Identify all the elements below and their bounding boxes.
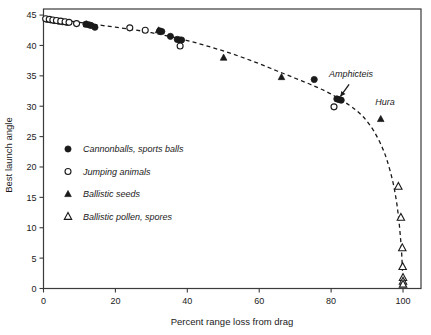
point-open-circle [65, 169, 71, 175]
point-filled-triangle [65, 191, 72, 197]
x-tick-label-100: 100 [396, 296, 411, 306]
annotation-arrow-head [340, 91, 345, 97]
point-filled-circle [178, 37, 184, 43]
x-axis-ticks: 020406080100 [41, 289, 411, 306]
chart-figure: 020406080100 051015202530354045 Amphicte… [0, 0, 431, 335]
legend-item-3: Ballistic pollen, spores [64, 212, 172, 222]
point-open-circle [142, 27, 148, 33]
y-tick-label-25: 25 [26, 132, 36, 142]
point-filled-triangle [377, 115, 384, 121]
y-tick-label-45: 45 [26, 10, 36, 20]
point-open-circle [331, 104, 337, 110]
legend-label-3: Ballistic pollen, spores [83, 212, 173, 222]
point-open-triangle [399, 263, 406, 270]
legend-label-1: Jumping animals [82, 167, 151, 177]
y-tick-label-20: 20 [26, 162, 36, 172]
series-open-circle [43, 16, 337, 110]
legend-item-2: Ballistic seeds [65, 189, 141, 199]
x-tick-label-60: 60 [254, 296, 264, 306]
legend-label-2: Ballistic seeds [83, 189, 141, 199]
y-tick-label-5: 5 [31, 254, 36, 264]
point-open-triangle [64, 213, 71, 220]
point-filled-triangle [220, 54, 227, 60]
point-filled-triangle [278, 74, 285, 80]
point-filled-circle [65, 146, 71, 152]
point-filled-circle [338, 97, 344, 103]
x-tick-label-80: 80 [326, 296, 336, 306]
legend-item-0: Cannonballs, sports balls [65, 144, 184, 154]
x-axis-title: Percent range loss from drag [171, 316, 294, 327]
point-filled-circle [167, 33, 173, 39]
annotation-label-hura: Hura [375, 97, 395, 107]
point-open-circle [127, 25, 133, 31]
y-tick-label-15: 15 [26, 193, 36, 203]
point-filled-circle [92, 24, 98, 30]
series-filled-circle [44, 16, 344, 103]
point-open-circle [177, 43, 183, 49]
y-tick-label-0: 0 [31, 284, 36, 294]
point-open-circle [74, 21, 80, 27]
scatter-plot: 020406080100 051015202530354045 Amphicte… [0, 0, 431, 335]
legend-item-1: Jumping animals [65, 167, 151, 177]
point-open-triangle [395, 182, 402, 189]
y-tick-label-30: 30 [26, 102, 36, 112]
point-open-circle [66, 19, 72, 25]
x-tick-label-0: 0 [41, 296, 46, 306]
y-axis-title: Best launch angle [3, 117, 14, 193]
chart-legend: Cannonballs, sports ballsJumping animals… [64, 144, 184, 222]
x-tick-label-20: 20 [110, 296, 120, 306]
y-tick-label-35: 35 [26, 71, 36, 81]
annotation-label-amphicteis: Amphicteis [328, 69, 374, 79]
y-axis-ticks: 051015202530354045 [26, 10, 43, 293]
y-tick-label-40: 40 [26, 41, 36, 51]
point-filled-circle [311, 76, 317, 82]
y-tick-label-10: 10 [26, 223, 36, 233]
x-tick-label-40: 40 [182, 296, 192, 306]
legend-label-0: Cannonballs, sports balls [83, 144, 184, 154]
point-open-triangle [399, 244, 406, 251]
